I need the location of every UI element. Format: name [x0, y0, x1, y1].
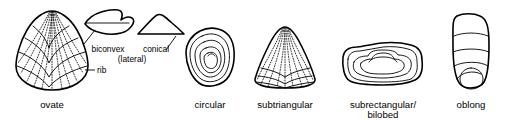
- ovate-shell-icon: [16, 11, 88, 90]
- conical-caption: conical: [143, 44, 169, 54]
- subrectangular-bilobed-shell-icon: [343, 43, 422, 85]
- biconvex-caption: biconvex: [91, 44, 125, 54]
- oblong-caption: oblong: [457, 99, 486, 110]
- ovate-caption: ovate: [40, 99, 63, 110]
- biconvex-leader-icon: [84, 30, 95, 44]
- subtriangular-shell-icon: [255, 27, 315, 88]
- biconvex-lens-icon: [85, 10, 134, 34]
- shell-shape-figure: rib ovate biconvex conical (lateral) cir…: [0, 0, 506, 120]
- subtriangular-caption: subtriangular: [257, 99, 313, 110]
- conical-triangle-icon: [138, 15, 184, 34]
- circular-caption: circular: [195, 99, 227, 110]
- figure-canvas: rib ovate biconvex conical (lateral) cir…: [0, 0, 506, 120]
- subrectangular-sub-caption: bilobed: [368, 109, 399, 120]
- rib-annotation-label: rib: [97, 65, 107, 75]
- oblong-shell-icon: [453, 14, 489, 89]
- circular-shell-icon: [186, 28, 234, 86]
- conical-sub-caption: (lateral): [118, 54, 147, 64]
